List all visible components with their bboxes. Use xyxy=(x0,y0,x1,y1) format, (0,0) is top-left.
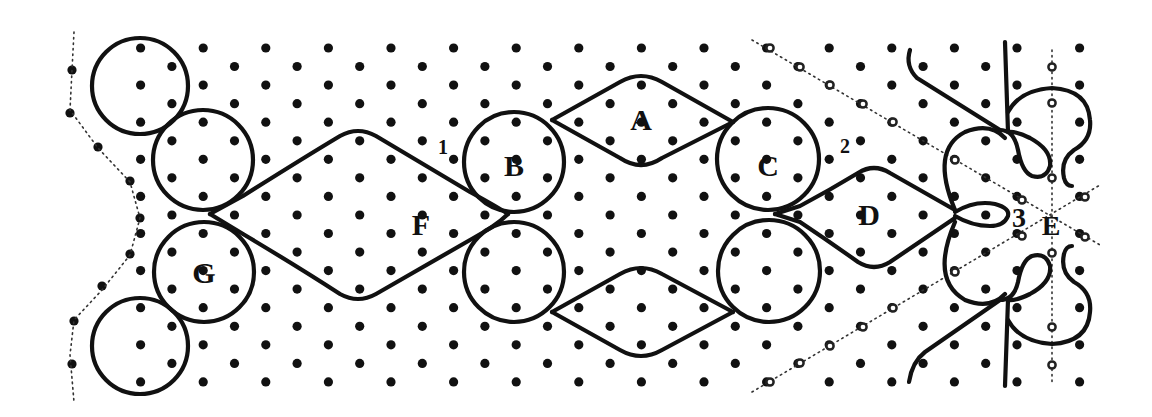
hollow-pin xyxy=(1048,361,1055,368)
pin-dot xyxy=(699,377,708,386)
pin-dot xyxy=(167,173,176,182)
pin-grid xyxy=(65,43,1084,386)
pin-dot xyxy=(887,377,896,386)
pin-dot xyxy=(136,266,145,275)
pin-dot xyxy=(1075,118,1084,127)
pin-dot xyxy=(825,266,834,275)
pin-dot xyxy=(418,173,427,182)
pin-dot xyxy=(1012,81,1021,90)
pin-dot xyxy=(512,43,521,52)
pin-dot xyxy=(293,359,302,368)
pin-dot xyxy=(637,81,646,90)
pin-dot xyxy=(825,303,834,312)
hollow-pin xyxy=(826,81,833,88)
pin-dot xyxy=(480,322,489,331)
pin-dot xyxy=(668,359,677,368)
pin-dot xyxy=(887,229,896,238)
pin-dot xyxy=(293,62,302,71)
pin-dot xyxy=(543,99,552,108)
pin-dot xyxy=(606,99,615,108)
pin-dot xyxy=(981,99,990,108)
pin-dot xyxy=(668,248,677,257)
pin-dot xyxy=(919,285,928,294)
pin-dot xyxy=(355,359,364,368)
pin-dot xyxy=(386,229,395,238)
pin-dot xyxy=(449,303,458,312)
pin-dot xyxy=(199,118,208,127)
left-edge-guide xyxy=(70,32,140,402)
pin-dot xyxy=(324,229,333,238)
edge-pin-dot xyxy=(125,249,134,258)
pin-dot xyxy=(449,118,458,127)
pin-dot xyxy=(668,210,677,219)
pin-dot xyxy=(199,340,208,349)
pin-dot xyxy=(606,285,615,294)
bottom-pair-vert-thread xyxy=(1005,300,1008,386)
pin-dot xyxy=(324,81,333,90)
bottom-loop-thread xyxy=(1000,255,1050,300)
pin-dot xyxy=(825,43,834,52)
pin-dot xyxy=(699,192,708,201)
pin-dot xyxy=(950,43,959,52)
pin-dot xyxy=(449,266,458,275)
step-number-2: 2 xyxy=(840,135,850,157)
pin-dot xyxy=(606,173,615,182)
pin-dot xyxy=(136,155,145,164)
region-label-F: F xyxy=(412,208,430,241)
guide-lines xyxy=(70,32,1100,402)
hollow-pin xyxy=(859,323,866,330)
pin-dot xyxy=(261,377,270,386)
hollow-pin xyxy=(1048,249,1055,256)
pin-dot xyxy=(480,248,489,257)
pin-dot xyxy=(418,62,427,71)
pin-dot xyxy=(293,99,302,108)
pin-dot xyxy=(199,43,208,52)
pin-dot xyxy=(1075,43,1084,52)
pin-dot xyxy=(919,359,928,368)
pin-dot xyxy=(762,192,771,201)
pin-dot xyxy=(386,340,395,349)
pin-dot xyxy=(386,377,395,386)
pin-dot xyxy=(574,303,583,312)
pin-dot xyxy=(793,322,802,331)
pin-dot xyxy=(825,118,834,127)
pin-dot xyxy=(480,359,489,368)
pin-dot xyxy=(167,99,176,108)
pin-dot xyxy=(512,377,521,386)
pin-dot xyxy=(574,266,583,275)
pin-dot xyxy=(230,99,239,108)
pin-dot xyxy=(449,43,458,52)
pin-dot xyxy=(543,210,552,219)
pin-dot xyxy=(324,118,333,127)
pin-dot xyxy=(950,340,959,349)
pin-dot xyxy=(480,285,489,294)
pin-dot xyxy=(386,43,395,52)
pin-dot xyxy=(856,248,865,257)
pin-dot xyxy=(574,340,583,349)
hollow-pin xyxy=(826,342,833,349)
pin-dot xyxy=(230,136,239,145)
region-label-D: D xyxy=(858,198,880,231)
pin-dot xyxy=(324,155,333,164)
pin-dot xyxy=(355,210,364,219)
pin-dot xyxy=(950,118,959,127)
pin-dot xyxy=(136,43,145,52)
pin-dot xyxy=(762,303,771,312)
pin-dot xyxy=(1012,303,1021,312)
pin-dot xyxy=(981,359,990,368)
pin-dot xyxy=(762,229,771,238)
pin-dot xyxy=(199,303,208,312)
pin-dot xyxy=(449,155,458,164)
pin-dot xyxy=(574,229,583,238)
pin-dot xyxy=(919,322,928,331)
pin-dot xyxy=(261,266,270,275)
pin-dot xyxy=(449,377,458,386)
pin-dot xyxy=(230,173,239,182)
pin-dot xyxy=(230,62,239,71)
pin-dot xyxy=(699,118,708,127)
region-label-A: A xyxy=(630,103,652,136)
pin-dot xyxy=(355,248,364,257)
pin-dot xyxy=(543,359,552,368)
pin-dot xyxy=(324,377,333,386)
hollow-pin xyxy=(1081,233,1088,240)
